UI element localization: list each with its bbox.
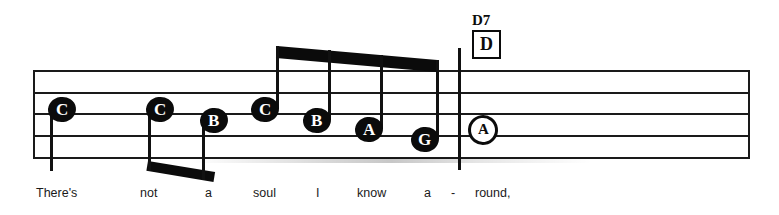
chord-diagram-box: D	[472, 30, 501, 59]
notehead-letter: B	[208, 112, 219, 129]
staff-line-1	[33, 70, 750, 72]
barline	[458, 48, 461, 170]
notehead-letter: C	[154, 101, 166, 118]
sheet-music-excerpt: CCBCBAGA D7 D There'snotasoulIknowa-roun…	[0, 0, 779, 215]
lyric-syllable-5: know	[357, 186, 386, 200]
staff-line-2	[33, 92, 750, 94]
notehead-letter: B	[311, 112, 322, 129]
notehead-a-7[interactable]: A	[466, 113, 500, 147]
stem-b-4	[328, 50, 331, 120]
staff-edge-right	[748, 70, 750, 159]
notehead-letter: A	[478, 122, 489, 137]
notehead-letter: C	[259, 101, 271, 118]
staff-edge-left	[33, 70, 35, 159]
lyric-syllable-1: not	[140, 186, 157, 200]
staff-line-3	[33, 113, 750, 115]
lyric-syllable-0: There's	[36, 186, 77, 200]
lyric-syllable-2: a	[205, 186, 212, 200]
lyric-syllable-8: round,	[475, 186, 510, 200]
lyric-syllable-3: soul	[253, 186, 276, 200]
notehead-letter: A	[363, 121, 375, 138]
lyric-syllable-7: -	[451, 186, 455, 200]
upper-beam	[276, 46, 437, 72]
staff-line-5	[33, 157, 750, 159]
notehead-letter: C	[56, 101, 68, 118]
notehead-letter: G	[418, 131, 431, 148]
chord-symbol-label: D7	[472, 12, 490, 29]
staff-line-4	[33, 135, 750, 137]
lyric-syllable-4: I	[316, 186, 319, 200]
stem-a-5	[380, 55, 383, 129]
lyric-syllable-6: a	[424, 186, 431, 200]
stem-g-6	[436, 60, 439, 139]
stem-c-3	[276, 46, 279, 109]
